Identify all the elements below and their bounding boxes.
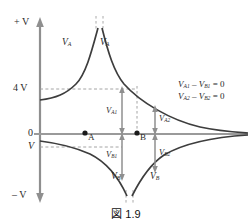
equation-line-1: VA1 – VB1 = 0 xyxy=(178,80,224,90)
measure-label-va1-sub: A1 xyxy=(111,109,117,115)
equation-line-2: VA2 – VB2 = 0 xyxy=(178,92,224,102)
curve-label-va-right-sub: A xyxy=(106,41,110,47)
figure-container: + V – V 4 V 0 V VA VA VB VB A B VA1 VB1 … xyxy=(0,0,252,224)
diagram-canvas xyxy=(0,0,252,224)
axis-tick-v: V xyxy=(28,141,34,151)
curve-label-va-right: VA xyxy=(100,38,109,48)
measure-label-vb2: VB2 xyxy=(159,148,170,157)
curve-label-vb-right-sub: B xyxy=(156,175,160,181)
curve-label-vb-left-sub: B xyxy=(117,175,121,181)
asymptote-top-dashes xyxy=(96,16,103,30)
measure-label-vb1: VB1 xyxy=(106,150,117,159)
eq1-equals: = 0 xyxy=(210,79,224,89)
curve-vb-right xyxy=(132,135,248,196)
point-label-b: B xyxy=(140,133,146,142)
point-label-a: A xyxy=(88,133,95,142)
vertical-axis xyxy=(36,17,44,203)
curve-label-va-left-sub: A xyxy=(68,41,72,47)
measure-label-va2-sub: A2 xyxy=(164,117,170,123)
measure-arrow-vb2 xyxy=(152,133,158,173)
data-point-b xyxy=(134,130,139,135)
eq2-minus: – xyxy=(190,91,199,101)
measure-label-va1: VA1 xyxy=(106,106,117,115)
axis-label-positive-v: + V xyxy=(14,17,29,27)
measure-arrow-va1 xyxy=(119,86,125,135)
curve-va-right xyxy=(102,28,248,133)
measure-label-vb2-sub: B2 xyxy=(164,151,170,157)
asymptote-bottom-dashes xyxy=(126,190,133,204)
curve-label-vb-left: VB xyxy=(111,172,120,182)
curve-label-vb-right: VB xyxy=(150,172,159,182)
curve-label-va-left: VA xyxy=(62,38,71,48)
eq2-equals: = 0 xyxy=(210,91,224,101)
axis-tick-zero: 0 xyxy=(28,128,33,138)
data-point-a xyxy=(82,130,87,135)
axis-label-negative-v: – V xyxy=(12,190,27,200)
axis-tick-4v: 4 V xyxy=(13,83,28,93)
measure-label-va2: VA2 xyxy=(159,114,170,123)
eq1-minus: – xyxy=(190,79,199,89)
figure-caption: 図 1.9 xyxy=(0,205,252,221)
measure-label-vb1-sub: B1 xyxy=(111,153,117,159)
